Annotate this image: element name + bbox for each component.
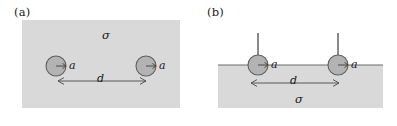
left-sphere-radius-label: a: [69, 60, 76, 71]
conductivity-sigma-label: σ: [295, 94, 303, 106]
panel-b-graphics: [198, 0, 397, 126]
separation-distance-label: d: [290, 75, 297, 86]
right-sphere-radius-label: a: [351, 59, 358, 70]
left-sphere: [46, 56, 66, 76]
left-sphere: [248, 33, 268, 75]
right-sphere-radius-label: a: [159, 60, 166, 71]
separation-distance-label: d: [97, 73, 104, 84]
figure-root: (a) σ a a: [0, 0, 397, 126]
right-sphere: [328, 33, 348, 75]
panel-b: (b): [198, 0, 397, 126]
panel-a-graphics: [0, 0, 198, 126]
panel-a: (a) σ a a: [0, 0, 198, 126]
right-sphere: [136, 56, 156, 76]
left-sphere-radius-label: a: [271, 59, 278, 70]
conductivity-sigma-label: σ: [102, 30, 110, 42]
